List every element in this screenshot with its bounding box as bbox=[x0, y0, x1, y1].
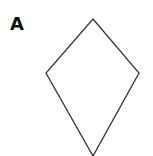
kite-shape bbox=[46, 19, 139, 156]
kite-diagram bbox=[0, 0, 153, 156]
